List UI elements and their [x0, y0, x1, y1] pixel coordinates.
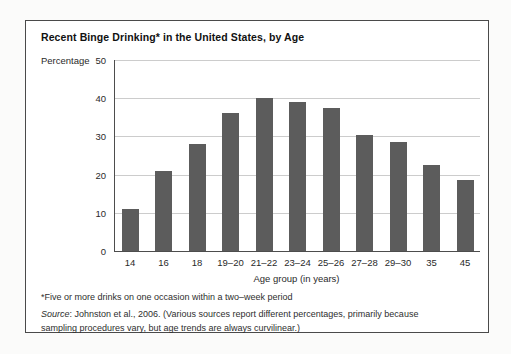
y-tick-label: 10 — [95, 207, 106, 218]
x-tick-label: 27–28 — [351, 257, 377, 268]
x-tick-label: 21–22 — [251, 257, 277, 268]
source-line-1-rest: : Johnston et al., 2006. (Various source… — [70, 309, 419, 319]
x-axis-title: Age group (in years) — [114, 273, 479, 284]
x-tick-label: 19–20 — [217, 257, 243, 268]
bar — [122, 209, 139, 251]
bar — [390, 142, 407, 251]
bar — [457, 180, 474, 251]
x-tick-label: 45 — [460, 257, 471, 268]
source-word: Source — [41, 309, 70, 319]
source-line-1: Source: Johnston et al., 2006. (Various … — [41, 307, 418, 321]
x-tick-label: 29–30 — [385, 257, 411, 268]
y-tick-label: 30 — [95, 131, 106, 142]
x-tick-label: 25–26 — [318, 257, 344, 268]
x-tick-label: 35 — [426, 257, 437, 268]
gridline — [115, 98, 480, 99]
gridline — [115, 60, 480, 61]
y-tick-label: 50 — [95, 55, 106, 66]
bar — [289, 102, 306, 251]
y-tick-label: 0 — [101, 246, 106, 257]
bar — [256, 98, 273, 251]
bar — [356, 135, 373, 252]
source-line-2: sampling procedures vary, but age trends… — [41, 321, 418, 335]
x-tick-label: 16 — [158, 257, 169, 268]
y-tick-labels: 01020304050 — [26, 60, 110, 251]
bar — [323, 108, 340, 251]
y-tick-label: 40 — [95, 93, 106, 104]
source-note: Source: Johnston et al., 2006. (Various … — [41, 307, 418, 335]
bar — [155, 171, 172, 251]
bar — [189, 144, 206, 251]
x-tick-label: 18 — [192, 257, 203, 268]
footnote: *Five or more drinks on one occasion wit… — [41, 292, 293, 302]
plot-area: 14161819–2021–2223–2425–2627–2829–303545 — [114, 60, 480, 252]
y-tick-label: 20 — [95, 169, 106, 180]
x-tick-label: 14 — [125, 257, 136, 268]
bar — [222, 113, 239, 251]
bar — [423, 165, 440, 251]
chart-title: Recent Binge Drinking* in the United Sta… — [41, 31, 304, 43]
x-tick-label: 23–24 — [284, 257, 310, 268]
chart-figure: Recent Binge Drinking* in the United Sta… — [25, 20, 489, 333]
